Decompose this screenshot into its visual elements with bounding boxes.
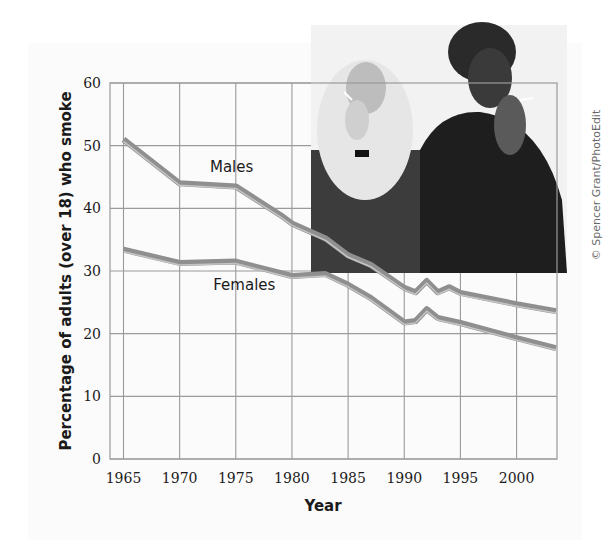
x-tick-label: 1995 [443, 470, 479, 486]
x-tick-label: 1990 [386, 470, 422, 486]
y-tick-label: 0 [92, 451, 101, 467]
wristwatch [355, 150, 369, 157]
x-tick-label: 1980 [274, 470, 310, 486]
males-label: Males [210, 158, 254, 176]
woman-left-hand [345, 100, 369, 140]
y-axis-title: Percentage of adults (over 18) who smoke [57, 91, 75, 450]
y-tick-label: 60 [83, 75, 101, 91]
x-tick-label: 1985 [330, 470, 366, 486]
y-tick-label: 10 [83, 388, 101, 404]
smokers-photo [311, 22, 567, 273]
woman-right-hand [494, 95, 526, 155]
y-tick-label: 40 [83, 200, 101, 216]
photo-credit: © Spencer Grant/PhotoEdit [590, 109, 603, 260]
x-tick-label: 1970 [162, 470, 198, 486]
line-chart: 1965197019751980198519901995200001020304… [0, 0, 603, 543]
y-tick-label: 30 [83, 263, 101, 279]
x-axis-title: Year [303, 497, 342, 515]
y-tick-label: 20 [83, 326, 101, 342]
y-tick-label: 50 [83, 138, 101, 154]
x-tick-label: 2000 [499, 470, 535, 486]
females-label: Females [213, 276, 275, 294]
x-tick-label: 1965 [106, 470, 142, 486]
x-tick-label: 1975 [218, 470, 254, 486]
